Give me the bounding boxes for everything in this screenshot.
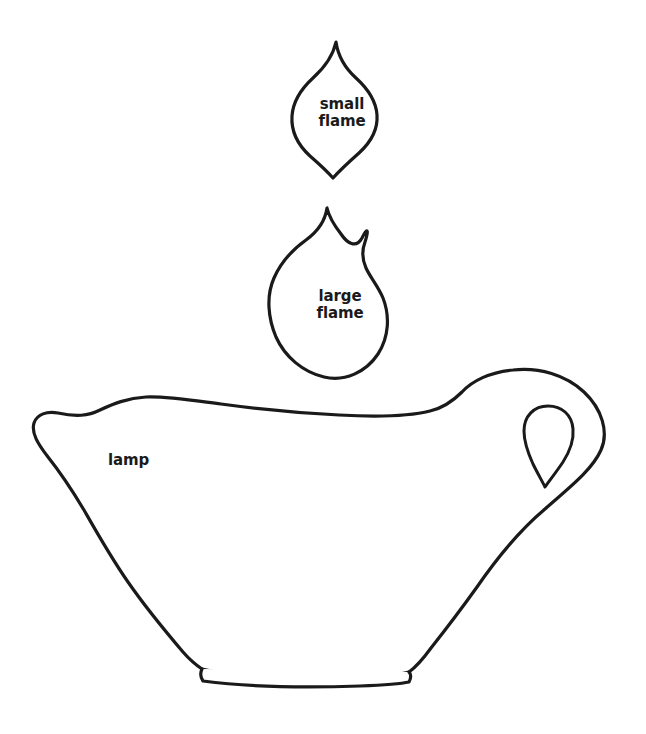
lamp-label: lamp [108,452,198,469]
small-flame-label: small flame [292,96,392,130]
large-flame-label: large flame [285,288,395,322]
lamp-shape [33,369,604,676]
template-page: small flame large flame lamp [0,0,646,734]
lamp-base-line [201,669,411,687]
